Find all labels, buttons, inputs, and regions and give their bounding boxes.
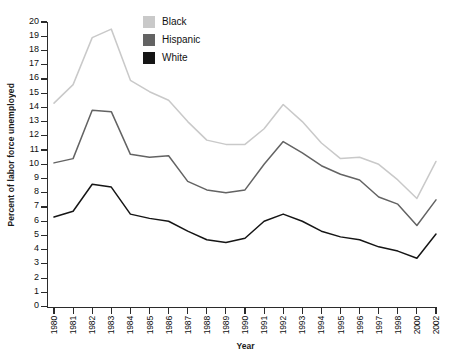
legend: Black Hispanic White: [143, 13, 200, 67]
legend-swatch-white: [143, 52, 155, 64]
x-axis-title: Year: [54, 341, 437, 351]
legend-item-black[interactable]: Black: [143, 13, 200, 30]
legend-label-hispanic: Hispanic: [162, 34, 200, 45]
legend-item-white[interactable]: White: [143, 49, 200, 66]
plot-area: [0, 0, 459, 361]
line-chart: Percent of labor force unemployed 012345…: [0, 0, 459, 361]
series-line-hispanic: [54, 110, 436, 225]
legend-swatch-hispanic: [143, 34, 155, 46]
legend-label-white: White: [162, 52, 188, 63]
series-line-white: [54, 184, 436, 258]
series-line-black: [54, 29, 436, 198]
legend-label-black: Black: [162, 16, 186, 27]
legend-swatch-black: [143, 16, 155, 28]
legend-item-hispanic[interactable]: Hispanic: [143, 31, 200, 48]
